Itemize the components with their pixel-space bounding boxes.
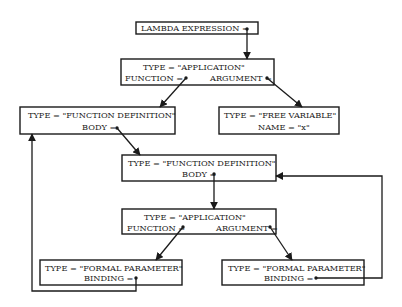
lambda-structure-diagram: LAMBDA EXPRESSION = TYPE = "APPLICATION"… bbox=[0, 0, 402, 307]
node-binding-label: BINDING = bbox=[264, 273, 313, 283]
node-lambda-label: LAMBDA EXPRESSION = bbox=[141, 23, 249, 33]
node-argument-label: ARGUMENT = bbox=[209, 73, 272, 83]
node-argument-label: ARGUMENT = bbox=[215, 223, 278, 233]
node-lambda-expression: LAMBDA EXPRESSION = bbox=[136, 22, 258, 34]
node-function-definition-outer: TYPE = "FUNCTION DEFINITION" BODY = bbox=[20, 107, 176, 134]
node-application-inner: TYPE = "APPLICATION" FUNCTION = ARGUMENT… bbox=[122, 209, 278, 234]
node-formal-parameter-right: TYPE = "FORMAL PARAMETER" BINDING = bbox=[222, 260, 366, 285]
edge-argument-to-freevar bbox=[267, 78, 302, 107]
node-name-label: NAME = "x" bbox=[258, 122, 310, 132]
node-application-top: TYPE = "APPLICATION" FUNCTION = ARGUMENT… bbox=[121, 59, 274, 85]
node-free-variable: TYPE = "FREE VARIABLE" NAME = "x" bbox=[219, 107, 339, 134]
node-type-label: TYPE = "FORMAL PARAMETER" bbox=[45, 263, 183, 273]
node-type-label: TYPE = "FUNCTION DEFINITION" bbox=[128, 158, 276, 168]
node-binding-label: BINDING = bbox=[84, 273, 133, 283]
node-function-label: FUNCTION = bbox=[125, 73, 183, 83]
node-function-definition-inner: TYPE = "FUNCTION DEFINITION" BODY = bbox=[122, 155, 276, 181]
node-function-label: FUNCTION = bbox=[127, 223, 185, 233]
node-type-label: TYPE = "FORMAL PARAMETER" bbox=[228, 263, 366, 273]
node-type-label: TYPE = "FUNCTION DEFINITION" bbox=[28, 110, 176, 120]
node-body-label: BODY = bbox=[82, 122, 116, 132]
node-body-label: BODY = bbox=[182, 169, 216, 179]
node-type-label: TYPE = "APPLICATION" bbox=[144, 212, 246, 222]
node-type-label: TYPE = "APPLICATION" bbox=[143, 62, 245, 72]
edge-argument-to-formal-right bbox=[270, 227, 292, 260]
node-formal-parameter-left: TYPE = "FORMAL PARAMETER" BINDING = bbox=[40, 260, 183, 285]
node-type-label: TYPE = "FREE VARIABLE" bbox=[224, 110, 336, 120]
